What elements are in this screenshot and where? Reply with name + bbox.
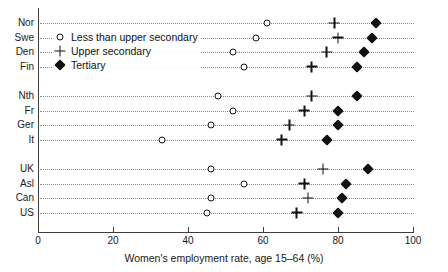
datapoint-den-less-than-upper-secondary: [230, 49, 237, 56]
category-label-ger: Ger: [0, 119, 34, 131]
legend-glyph: [53, 44, 67, 58]
datapoint-nth-less-than-upper-secondary: [215, 93, 222, 100]
datapoint-ger-upper-secondary: [284, 120, 295, 131]
x-tick-label: 0: [35, 235, 41, 247]
datapoint-can-upper-secondary: [303, 193, 314, 204]
legend-label: Upper secondary: [67, 44, 151, 58]
category-label-den: Den: [0, 46, 34, 58]
x-tick-mark: [263, 227, 264, 233]
datapoint-asl-less-than-upper-secondary: [241, 180, 248, 187]
x-tick-label: 100: [405, 235, 422, 247]
x-tick-mark: [413, 227, 414, 233]
legend-item: Upper secondary: [53, 44, 198, 58]
datapoint-it-less-than-upper-secondary: [158, 136, 165, 143]
datapoint-it-upper-secondary: [276, 134, 287, 145]
row-gridline: [40, 23, 414, 25]
datapoint-ger-tertiary: [332, 120, 343, 131]
datapoint-den-tertiary: [359, 47, 370, 58]
x-tick-mark: [188, 227, 189, 233]
datapoint-uk-upper-secondary: [318, 164, 329, 175]
category-label-nth: Nth: [0, 90, 34, 102]
legend-glyph: [53, 30, 67, 44]
datapoint-swe-upper-secondary: [333, 32, 344, 43]
datapoint-nor-less-than-upper-secondary: [263, 20, 270, 27]
row-gridline: [40, 140, 414, 142]
category-label-uk: UK: [0, 163, 34, 175]
category-label-nor: Nor: [0, 17, 34, 29]
row-gridline: [40, 213, 414, 215]
datapoint-uk-less-than-upper-secondary: [207, 166, 214, 173]
category-label-fr: Fr: [0, 105, 34, 117]
datapoint-fin-less-than-upper-secondary: [241, 63, 248, 70]
chart-legend: Less than upper secondaryUpper secondary…: [52, 29, 201, 73]
row-gridline: [40, 111, 414, 113]
row-gridline: [40, 169, 414, 171]
datapoint-can-less-than-upper-secondary: [207, 195, 214, 202]
datapoint-swe-tertiary: [366, 32, 377, 43]
datapoint-can-tertiary: [336, 193, 347, 204]
category-label-it: It: [0, 134, 34, 146]
datapoint-swe-less-than-upper-secondary: [252, 34, 259, 41]
datapoint-us-upper-secondary: [291, 207, 302, 218]
datapoint-nth-upper-secondary: [306, 91, 317, 102]
category-label-us: US: [0, 207, 34, 219]
y-axis-line: [38, 8, 39, 232]
datapoint-us-tertiary: [332, 207, 343, 218]
x-tick-label: 20: [107, 235, 118, 247]
datapoint-asl-tertiary: [340, 178, 351, 189]
datapoint-asl-upper-secondary: [299, 178, 310, 189]
datapoint-den-upper-secondary: [321, 47, 332, 58]
datapoint-nor-upper-secondary: [329, 18, 340, 29]
x-tick-label: 80: [332, 235, 343, 247]
datapoint-fin-tertiary: [351, 61, 362, 72]
datapoint-ger-less-than-upper-secondary: [207, 122, 214, 129]
datapoint-nor-tertiary: [370, 17, 381, 28]
x-tick-label: 40: [182, 235, 193, 247]
category-label-can: Can: [0, 192, 34, 204]
datapoint-fr-tertiary: [332, 105, 343, 116]
datapoint-it-tertiary: [321, 134, 332, 145]
x-axis-title: Women's employment rate, age 15–64 (%): [0, 252, 448, 264]
datapoint-fr-less-than-upper-secondary: [230, 107, 237, 114]
row-gridline: [40, 198, 414, 200]
legend-label: Tertiary: [67, 58, 105, 72]
datapoint-us-less-than-upper-secondary: [203, 209, 210, 216]
legend-item: Less than upper secondary: [53, 30, 198, 44]
legend-glyph: [53, 58, 67, 72]
row-gridline: [40, 184, 414, 186]
datapoint-fr-upper-secondary: [299, 105, 310, 116]
legend-label: Less than upper secondary: [67, 30, 198, 44]
datapoint-nth-tertiary: [351, 90, 362, 101]
x-tick-label: 60: [257, 235, 268, 247]
x-tick-mark: [113, 227, 114, 233]
diamond-marker-icon: [54, 59, 65, 70]
x-tick-mark: [338, 227, 339, 233]
category-label-swe: Swe: [0, 32, 34, 44]
row-gridline: [40, 125, 414, 127]
category-label-fin: Fin: [0, 61, 34, 73]
datapoint-fin-upper-secondary: [306, 61, 317, 72]
x-axis-line: [38, 232, 414, 233]
employment-rate-dot-chart: NorSweDenFinNthFrGerItUKAslCanUS 0204060…: [0, 0, 448, 272]
legend-item: Tertiary: [53, 58, 198, 72]
plus-marker-icon: [55, 46, 66, 57]
open-circle-marker-icon: [57, 34, 64, 41]
datapoint-uk-tertiary: [362, 163, 373, 174]
category-label-asl: Asl: [0, 178, 34, 190]
x-tick-mark: [38, 227, 39, 233]
